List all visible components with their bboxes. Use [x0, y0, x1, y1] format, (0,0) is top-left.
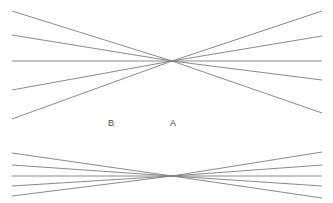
fan-line-segment — [172, 61, 322, 113]
fan-line-segment — [172, 152, 322, 176]
fan-line-segment — [172, 61, 322, 80]
fan-line-segment — [12, 35, 172, 61]
fan-line-segment — [172, 176, 322, 186]
fan-line-segment — [12, 61, 172, 119]
fan-line-segment — [12, 11, 172, 61]
fan-line-segment — [172, 176, 322, 198]
converging-lines-svg — [0, 0, 333, 203]
fan-line-segment — [12, 176, 172, 186]
fan-line-segment — [12, 153, 172, 176]
fan-line-segment — [12, 176, 172, 196]
point-label-b: B — [108, 119, 114, 128]
fan-line-segment — [172, 165, 322, 176]
figure-canvas: B A — [0, 0, 333, 203]
fan-line-segment — [172, 36, 322, 61]
fan-line-segment — [12, 61, 172, 90]
point-label-a: A — [170, 119, 176, 128]
fan-line-segment — [12, 165, 172, 176]
fan-line-segment — [172, 11, 322, 61]
